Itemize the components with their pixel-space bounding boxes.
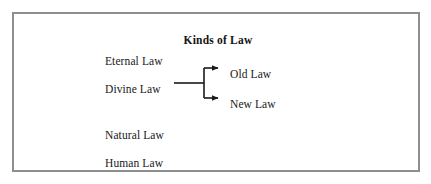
law-label-new: New Law (230, 97, 276, 111)
law-label-human: Human Law (105, 156, 163, 170)
law-label-divine: Divine Law (105, 82, 161, 96)
law-label-old: Old Law (230, 67, 271, 81)
law-label-natural: Natural Law (105, 128, 164, 142)
figure-title: Kinds of Law (14, 33, 422, 47)
figure-frame: Kinds of Law Eternal Law Divine Law Natu… (12, 12, 420, 172)
law-label-eternal: Eternal Law (105, 54, 163, 68)
kinds-of-law-figure: Kinds of Law Eternal Law Divine Law Natu… (0, 0, 431, 184)
